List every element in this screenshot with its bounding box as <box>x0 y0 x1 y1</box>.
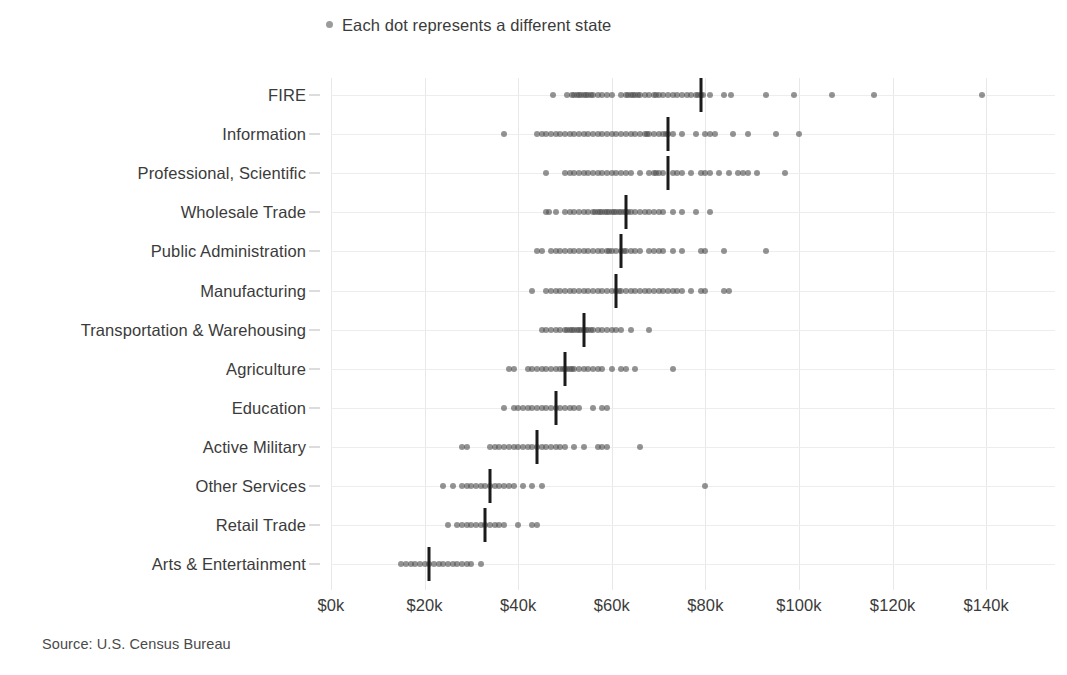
data-point-dot <box>511 483 517 489</box>
y-axis-labels: FIREInformationProfessional, ScientificW… <box>0 78 320 590</box>
data-point-dot <box>712 131 718 137</box>
y-axis-category-label: Wholesale Trade <box>181 203 306 222</box>
data-point-dot <box>702 288 708 294</box>
y-axis-tick <box>309 251 320 252</box>
chart-legend: Each dot represents a different state <box>326 16 611 35</box>
data-point-dot <box>637 170 643 176</box>
data-point-dot <box>646 327 652 333</box>
median-marker <box>620 234 623 268</box>
y-axis-category-label: Information <box>222 125 306 144</box>
y-axis-tick <box>309 525 320 526</box>
data-point-dot <box>745 170 751 176</box>
data-point-dot <box>539 248 545 254</box>
data-point-dot <box>829 92 835 98</box>
data-point-dot <box>637 444 643 450</box>
data-point-dot <box>670 366 676 372</box>
data-point-dot <box>745 131 751 137</box>
data-point-dot <box>791 92 797 98</box>
data-point-dot <box>763 92 769 98</box>
data-point-dot <box>796 131 802 137</box>
plot-area <box>331 78 1055 590</box>
x-axis-tick-label: $20k <box>407 596 443 615</box>
data-point-dot <box>478 561 484 567</box>
data-point-dot <box>679 170 685 176</box>
data-point-dot <box>609 92 615 98</box>
data-point-dot <box>623 366 629 372</box>
median-marker <box>554 391 557 425</box>
data-point-dot <box>688 288 694 294</box>
data-point-dot <box>628 327 634 333</box>
median-marker <box>582 313 585 347</box>
data-point-dot <box>628 170 634 176</box>
data-point-dot <box>763 248 769 254</box>
data-point-dot <box>562 444 568 450</box>
x-axis-tick-label: $0k <box>318 596 345 615</box>
data-point-dot <box>445 522 451 528</box>
data-point-dot <box>679 131 685 137</box>
data-point-dot <box>660 248 666 254</box>
data-point-dot <box>670 131 676 137</box>
median-marker <box>666 117 669 151</box>
y-axis-category-label: Manufacturing <box>200 281 306 300</box>
data-point-dot <box>871 92 877 98</box>
data-point-dot <box>604 444 610 450</box>
median-marker <box>666 156 669 190</box>
y-axis-category-label: FIRE <box>268 86 306 105</box>
data-point-dot <box>515 522 521 528</box>
data-point-dot <box>618 327 624 333</box>
y-axis-category-label: Other Services <box>195 477 306 496</box>
data-point-dot <box>660 209 666 215</box>
median-marker <box>615 274 618 308</box>
data-point-dot <box>553 209 559 215</box>
data-point-dot <box>501 405 507 411</box>
y-axis-category-label: Education <box>232 398 306 417</box>
data-point-dot <box>539 483 545 489</box>
data-point-dot <box>501 522 507 528</box>
data-point-dot <box>550 92 556 98</box>
y-axis-tick <box>309 173 320 174</box>
data-point-dot <box>581 444 587 450</box>
data-point-dot <box>590 405 596 411</box>
data-point-dot <box>679 209 685 215</box>
x-axis-labels: $0k$20k$40k$60k$80k$100k$120k$140k <box>331 596 1055 622</box>
x-axis-tick-label: $80k <box>687 596 723 615</box>
median-marker <box>489 469 492 503</box>
data-points-layer <box>331 78 1055 590</box>
data-point-dot <box>730 131 736 137</box>
dot-plot-chart: Each dot represents a different state FI… <box>0 0 1067 675</box>
gray-dot-icon <box>326 21 333 28</box>
y-axis-tick <box>309 212 320 213</box>
data-point-dot <box>440 483 446 489</box>
data-point-dot <box>721 248 727 254</box>
data-point-dot <box>529 483 535 489</box>
y-axis-tick <box>309 368 320 369</box>
y-axis-tick <box>309 446 320 447</box>
data-point-dot <box>599 366 605 372</box>
median-marker <box>428 547 431 581</box>
x-axis-tick-label: $100k <box>776 596 821 615</box>
legend-label: Each dot represents a different state <box>342 16 611 35</box>
data-point-dot <box>688 170 694 176</box>
x-axis-tick-label: $60k <box>594 596 630 615</box>
y-axis-category-label: Arts & Entertainment <box>152 555 306 574</box>
data-point-dot <box>571 444 577 450</box>
y-axis-tick <box>309 329 320 330</box>
data-point-dot <box>721 92 727 98</box>
median-marker <box>484 508 487 542</box>
data-point-dot <box>782 170 788 176</box>
data-point-dot <box>520 483 526 489</box>
data-point-dot <box>576 405 582 411</box>
data-point-dot <box>693 131 699 137</box>
y-axis-tick <box>309 564 320 565</box>
data-point-dot <box>670 209 676 215</box>
data-point-dot <box>468 561 474 567</box>
data-point-dot <box>637 248 643 254</box>
data-point-dot <box>670 248 676 254</box>
source-note: Source: U.S. Census Bureau <box>42 636 231 652</box>
y-axis-category-label: Public Administration <box>151 242 306 261</box>
y-axis-category-label: Active Military <box>203 437 306 456</box>
data-point-dot <box>450 483 456 489</box>
data-point-dot <box>726 288 732 294</box>
data-point-dot <box>604 405 610 411</box>
data-point-dot <box>501 131 507 137</box>
